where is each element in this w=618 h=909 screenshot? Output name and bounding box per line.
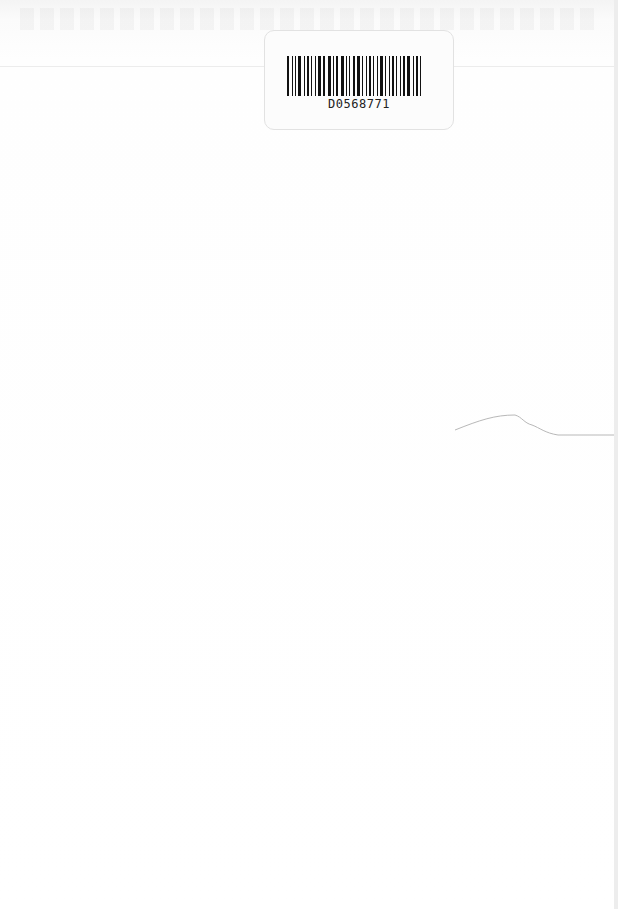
scanned-page: D0568771 [0, 0, 618, 909]
bleed-through-text [20, 8, 598, 30]
barcode-icon [287, 56, 431, 96]
page-edge-shadow [614, 0, 618, 909]
pencil-stroke-mark [440, 395, 618, 455]
barcode-number: D0568771 [265, 97, 453, 111]
barcode-label: D0568771 [264, 30, 454, 130]
